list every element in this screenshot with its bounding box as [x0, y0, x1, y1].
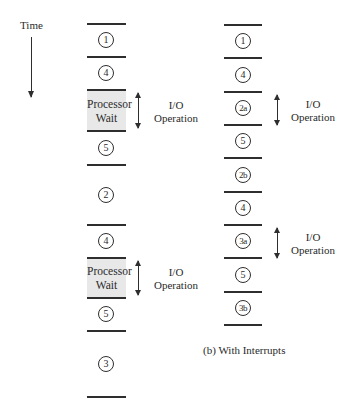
- step-4-circle: 4: [98, 233, 114, 249]
- time-arrow-icon: [31, 37, 32, 97]
- step-2b-circle: 2b: [235, 167, 251, 183]
- divider: [87, 23, 126, 25]
- step-1-circle: 1: [235, 33, 251, 49]
- step-5-circle: 5: [98, 140, 114, 156]
- io-operation-label: I/O Operation: [146, 266, 206, 292]
- step-3b-circle: 3b: [235, 300, 251, 316]
- divider: [224, 57, 262, 59]
- divider: [224, 257, 262, 259]
- step-5-circle: 5: [235, 267, 251, 283]
- divider: [224, 291, 262, 293]
- step-3a-circle: 3a: [235, 233, 251, 249]
- divider: [87, 130, 126, 132]
- figure-caption: (b) With Interrupts: [203, 344, 285, 356]
- wait-line2: Wait: [87, 111, 126, 125]
- processor-wait-block: Processor Wait: [87, 91, 126, 130]
- divider: [224, 91, 262, 93]
- divider: [87, 330, 126, 332]
- step-4-circle: 4: [98, 65, 114, 81]
- io-operation-label: I/O Operation: [283, 98, 343, 124]
- step-4-circle: 4: [235, 67, 251, 83]
- wait-line2: Wait: [87, 278, 126, 292]
- divider: [224, 324, 262, 326]
- wait-line1: Processor: [87, 97, 126, 111]
- step-2a-circle: 2a: [235, 100, 251, 116]
- divider: [224, 157, 262, 159]
- io-span-arrow-icon: [138, 261, 139, 295]
- step-5-circle: 5: [98, 306, 114, 322]
- divider: [87, 224, 126, 226]
- wait-line1: Processor: [87, 264, 126, 278]
- io-span-arrow-icon: [138, 93, 139, 128]
- divider: [87, 297, 126, 299]
- divider: [87, 56, 126, 58]
- step-5-circle: 5: [235, 133, 251, 149]
- io-operation-label: I/O Operation: [283, 231, 343, 257]
- divider: [224, 124, 262, 126]
- step-4-circle: 4: [235, 200, 251, 216]
- processor-wait-block: Processor Wait: [87, 259, 126, 297]
- io-span-arrow-icon: [277, 228, 278, 258]
- divider: [87, 164, 126, 166]
- divider: [224, 224, 262, 226]
- divider: [224, 24, 262, 26]
- io-operation-label: I/O Operation: [146, 99, 206, 125]
- divider: [224, 191, 262, 193]
- step-1-circle: 1: [98, 32, 114, 48]
- step-2-circle: 2: [98, 187, 114, 203]
- io-span-arrow-icon: [277, 95, 278, 125]
- time-label: Time: [20, 19, 43, 31]
- divider: [87, 396, 126, 398]
- step-3-circle: 3: [98, 356, 114, 372]
